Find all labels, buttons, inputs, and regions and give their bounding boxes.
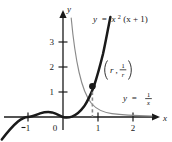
x-tick-label-minus-1: 1 — [26, 123, 31, 133]
x-axis-label: x — [162, 113, 167, 123]
hyperbola-label-equals: = — [132, 93, 137, 103]
intersection-point-label: r , 1 r — [105, 61, 132, 80]
hyperbola-label-numerator: 1 — [147, 91, 150, 98]
cubic-label-exponent: 2 — [118, 13, 121, 20]
origin-label: 0 — [53, 123, 58, 133]
point-label-first-coord: r — [110, 65, 114, 75]
hyperbola-curve-label: y = 1 x — [122, 91, 152, 106]
x-tick-label-2: 2 — [131, 123, 136, 133]
point-label-close-paren — [129, 61, 132, 80]
y-tick-labels: 1 2 3 — [50, 37, 55, 97]
cubic-label-lhs: y — [92, 14, 97, 24]
graph-canvas: 1 1 2 1 2 3 0 x y y = x 2 (x + — [0, 0, 172, 142]
point-label-numerator: 1 — [121, 62, 124, 69]
y-axis-label: y — [66, 4, 71, 14]
point-label-comma: , — [116, 65, 118, 75]
x-tick-label-1: 1 — [96, 123, 101, 133]
axes-group — [4, 10, 160, 130]
y-tick-label-3: 3 — [50, 37, 55, 47]
cubic-label-base: x — [111, 14, 116, 24]
point-label-denominator: r — [122, 71, 125, 78]
hyperbola-label-lhs: y — [122, 93, 127, 103]
x-axis-arrowhead — [152, 113, 160, 120]
y-tick-label-1: 1 — [50, 87, 55, 97]
intersection-point-marker — [89, 83, 96, 90]
svg-text:y =: y = — [122, 93, 137, 103]
y-axis-arrowhead — [59, 10, 66, 18]
cubic-curve-label: y = x 2 (x + 1) — [92, 11, 148, 24]
y-tick-label-2: 2 — [50, 62, 55, 72]
cubic-curve — [2, 17, 111, 140]
x-tick-labels: 1 1 2 — [26, 123, 136, 133]
math-figure: 1 1 2 1 2 3 0 x y y = x 2 (x + — [0, 0, 172, 142]
cubic-label-tail: (x + 1) — [123, 14, 148, 24]
point-label-open-paren — [105, 61, 108, 80]
svg-text:y = x: y = x 2 (x + 1) — [92, 11, 148, 24]
cubic-label-equals: = — [102, 14, 107, 24]
hyperbola-label-denominator: x — [146, 99, 150, 106]
